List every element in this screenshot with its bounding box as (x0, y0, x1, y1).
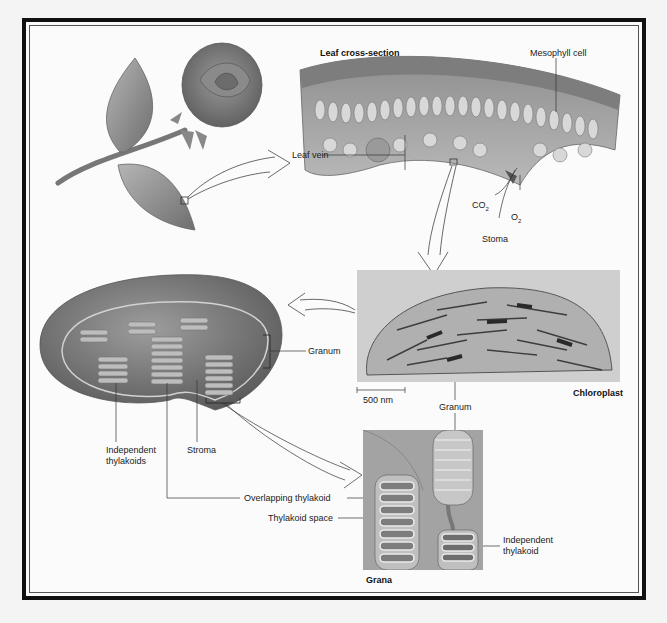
arrow-micrograph-to-diagram (288, 293, 355, 316)
grana-illustration (363, 430, 483, 570)
chloroplast-micrograph (357, 270, 620, 382)
co2-label: CO2 (472, 200, 489, 214)
micrograph-granum-label: Granum (439, 402, 472, 412)
overlapping-thylakoid-label: Overlapping thylakoid (244, 493, 331, 503)
diagram-granum-label: Granum (308, 346, 341, 356)
independent-thylakoids-label-line2: thylakoids (106, 456, 146, 466)
thylakoid-space-label: Thylakoid space (268, 513, 333, 523)
stroma-label: Stroma (187, 445, 216, 455)
grana-title: Grana (366, 575, 392, 585)
chloroplast-diagram-illustration (40, 275, 282, 410)
independent-thylakoid-label-line1: Independent (503, 535, 553, 545)
independent-thylakoids-label-line1: Independent (106, 445, 156, 455)
o2-text: O (511, 212, 518, 222)
rose-illustration (58, 43, 262, 230)
independent-thylakoid-label-line2: thylakoid (503, 546, 539, 556)
grana-image (363, 430, 483, 570)
stoma-label: Stoma (482, 234, 508, 244)
arrow-section-to-micrograph (418, 166, 456, 275)
co2-subscript: 2 (486, 206, 489, 212)
o2-subscript: 2 (518, 218, 521, 224)
scale-bar-label: 500 nm (363, 395, 393, 405)
arrow-leaf-to-section (188, 150, 290, 199)
chloroplast-title: Chloroplast (573, 388, 623, 398)
o2-label: O2 (511, 212, 521, 226)
leaf-vein-label: Leaf vein (292, 150, 329, 160)
leaf-cross-section-illustration (300, 56, 620, 185)
leaf-cross-section-title: Leaf cross-section (320, 48, 400, 58)
co2-text: CO (472, 200, 486, 210)
mesophyll-cell-label: Mesophyll cell (530, 48, 587, 58)
micrograph-image (357, 270, 620, 382)
